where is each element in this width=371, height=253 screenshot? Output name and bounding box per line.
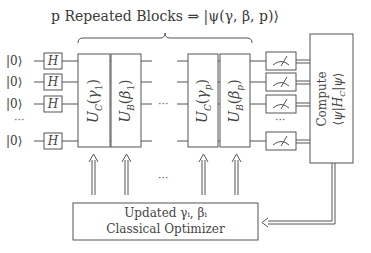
qubit-init-4: |0⟩: [6, 134, 22, 148]
h-label-3: H: [44, 97, 62, 111]
compute-label: Compute ⟨ψ|HC|ψ⟩: [314, 49, 348, 149]
diagram-title: p Repeated Blocks ⇒ |ψ(γ, β, p)⟩: [0, 8, 330, 24]
ellipsis-qubits: ···: [14, 114, 25, 127]
ellipsis-meters: ···: [275, 114, 286, 127]
qubit-init-1: |0⟩: [6, 54, 22, 68]
h-label-1: H: [44, 54, 62, 68]
ub-betap-label: UB(βp): [226, 61, 244, 141]
uc-gamma1-label: UC(γ1): [85, 61, 103, 141]
ellipsis-arrows: ···: [158, 172, 169, 185]
repeated-blocks-brace: [78, 33, 252, 43]
compute-line1: Compute: [314, 49, 330, 149]
classical-wires: [296, 60, 310, 143]
optimizer-line1: Updated γᵢ, βᵢ: [73, 205, 258, 221]
qubit-init-2: |0⟩: [6, 75, 22, 89]
h-label-2: H: [44, 75, 62, 89]
feedback-arrowhead: [262, 218, 268, 227]
h-label-4: H: [44, 134, 62, 148]
qubit-init-3: |0⟩: [6, 97, 22, 111]
ub-beta1-label: UB(β1): [117, 61, 135, 141]
uc-gammap-label: UC(γp): [194, 61, 212, 141]
feedback-double-line: [268, 163, 332, 221]
optimizer-label: Updated γᵢ, βᵢ Classical Optimizer: [73, 203, 258, 240]
optimizer-line2: Classical Optimizer: [73, 221, 258, 237]
ellipsis-blocks: ···: [158, 98, 169, 111]
measurement-meters: [266, 52, 296, 150]
compute-expectation: ⟨ψ|HC|ψ⟩: [330, 49, 351, 149]
